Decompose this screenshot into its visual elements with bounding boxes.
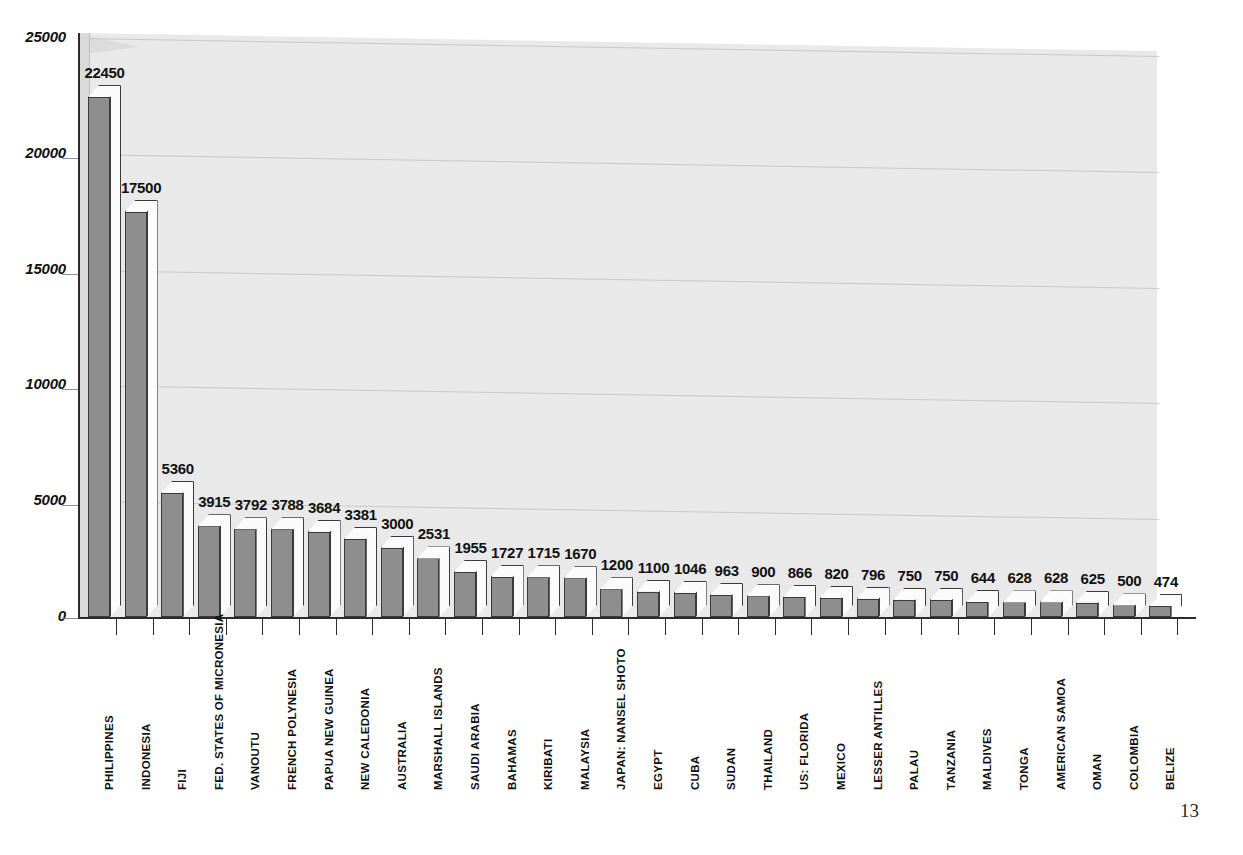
bar-front-face: [893, 600, 915, 617]
x-axis-category-label: AUSTRALIA: [396, 721, 408, 790]
bar-front-face: [308, 532, 330, 617]
x-axis-tick: [848, 618, 849, 635]
x-axis-category-label: PHILIPPINES: [103, 715, 115, 790]
x-axis-category-label: MARSHALL ISLANDS: [432, 667, 444, 790]
y-axis-tick-mark: [62, 389, 78, 390]
bar: [381, 536, 414, 617]
x-axis-category-label: BAHAMAS: [506, 729, 518, 790]
bar: [271, 517, 304, 617]
x-axis-category-label: FIJI: [176, 769, 188, 790]
x-axis-tick: [1068, 618, 1069, 635]
x-axis-category-label: THAILAND: [762, 729, 774, 790]
bar: [637, 580, 670, 617]
y-axis-tick-mark: [62, 505, 78, 506]
bar-front-face: [1149, 606, 1171, 617]
x-axis-tick: [153, 618, 154, 635]
bar: [674, 581, 707, 617]
x-axis-tick: [336, 618, 337, 635]
y-axis-tick-mark: [62, 274, 78, 275]
bar-front-face: [1113, 605, 1135, 617]
x-axis-tick: [994, 618, 995, 635]
page-number: 13: [1180, 800, 1199, 822]
bar: [930, 588, 963, 617]
bar: [1076, 591, 1109, 617]
bar-front-face: [344, 539, 366, 617]
bar: [308, 520, 341, 617]
x-axis-category-label: SAUDI ARABIA: [469, 703, 481, 790]
bar: [1040, 590, 1073, 617]
x-axis-category-label: MALDIVES: [981, 728, 993, 790]
x-axis-tick: [702, 618, 703, 635]
y-axis-tick-label: 10000: [25, 375, 66, 392]
x-axis-tick: [262, 618, 263, 635]
bar: [417, 546, 450, 617]
bar-front-face: [857, 599, 879, 617]
x-axis-tick: [885, 618, 886, 635]
x-axis-category-label: INDONESIA: [140, 723, 152, 790]
bar: [527, 565, 560, 617]
bar-front-face: [564, 578, 586, 617]
bar: [454, 560, 487, 617]
x-axis-category-label: TANZANIA: [945, 730, 957, 790]
bar: [564, 566, 597, 617]
x-axis-tick: [189, 618, 190, 635]
x-axis-category-label: VANOUTU: [249, 732, 261, 790]
x-axis-line: [78, 617, 1196, 619]
bar: [710, 583, 743, 617]
x-axis-category-label: JAPAN: NANSEL SHOTO: [615, 648, 627, 790]
x-axis-category-label: AMERICAN SAMOA: [1055, 678, 1067, 790]
x-axis-tick: [958, 618, 959, 635]
bar-front-face: [1040, 602, 1062, 617]
x-axis-category-label: BELIZE: [1164, 747, 1176, 790]
bar: [491, 565, 524, 617]
bar-front-face: [966, 602, 988, 617]
x-axis-tick: [372, 618, 373, 635]
bar-front-face: [271, 529, 293, 617]
bar-value-label: 5360: [152, 460, 203, 477]
bar: [198, 514, 231, 617]
x-axis-category-label: LESSER ANTILLES: [872, 681, 884, 791]
bar: [1113, 593, 1146, 617]
bar-side-face: [293, 517, 304, 617]
bar-front-face: [125, 212, 147, 617]
bar: [893, 588, 926, 617]
bar-front-face: [88, 97, 110, 617]
bar-side-face: [110, 85, 121, 617]
bar-front-face: [161, 493, 183, 617]
x-axis-category-label: SUDAN: [725, 748, 737, 790]
bar: [966, 590, 999, 617]
bar-front-face: [710, 595, 732, 617]
x-axis-category-label: TONGA: [1018, 747, 1030, 790]
bar-front-face: [491, 577, 513, 617]
x-axis-tick: [738, 618, 739, 635]
bar: [234, 517, 267, 617]
bar-side-face: [366, 527, 377, 617]
bar-front-face: [747, 596, 769, 617]
bar-front-face: [674, 593, 696, 617]
x-axis-tick: [445, 618, 446, 635]
x-axis-category-label: CUBA: [689, 756, 701, 790]
bar-side-face: [147, 200, 158, 617]
y-axis-tick-label: 25000: [25, 28, 66, 45]
bar-front-face: [783, 597, 805, 617]
bar: [600, 577, 633, 617]
x-axis-tick: [1031, 618, 1032, 635]
x-axis-tick: [1177, 618, 1178, 635]
x-axis-tick: [482, 618, 483, 635]
x-axis-category-label: NEW CALEDONIA: [359, 688, 371, 790]
x-axis-category-label: FED. STATES OF MICRONESIA: [213, 614, 225, 790]
x-axis-tick: [116, 618, 117, 635]
x-axis-category-label: FRENCH POLYNESIA: [286, 669, 298, 790]
x-axis-tick: [1141, 618, 1142, 635]
x-axis-category-label: KIRIBATI: [542, 739, 554, 790]
y-axis-line: [78, 33, 80, 618]
bar-value-label: 17500: [116, 179, 167, 196]
y-axis-tick-mark: [62, 618, 78, 619]
bar-front-face: [527, 577, 549, 617]
bar-front-face: [198, 526, 220, 617]
bar-front-face: [234, 529, 256, 617]
bar: [1003, 590, 1036, 617]
x-axis-category-label: OMAN: [1091, 754, 1103, 790]
x-axis-tick: [775, 618, 776, 635]
x-axis-category-label: MEXICO: [835, 743, 847, 790]
